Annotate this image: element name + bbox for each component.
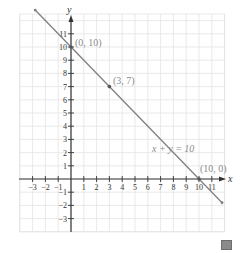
point-label-3-7: (3, 7): [113, 75, 135, 87]
y-tick-label: 2: [63, 149, 67, 158]
data-point: [69, 45, 73, 49]
y-tick-label: 9: [63, 56, 67, 65]
y-tick-label: 10: [59, 43, 67, 52]
x-tick-label: 5: [133, 183, 137, 192]
y-tick-label: 1: [63, 162, 67, 171]
y-tick-label: −1: [58, 188, 67, 197]
x-tick-label: 6: [146, 183, 150, 192]
y-axis-arrow-icon: [69, 15, 74, 22]
x-tick-label: 8: [171, 183, 175, 192]
x-axis-label: x: [227, 173, 233, 184]
y-tick-label: 8: [63, 69, 67, 78]
x-tick-label: 9: [184, 183, 188, 192]
y-tick-label: −2: [58, 201, 67, 210]
grid-lines: [20, 14, 225, 232]
y-axis-label: y: [66, 4, 72, 15]
x-tick-label: 10: [195, 183, 203, 192]
y-tick-label: 7: [63, 83, 67, 92]
y-tick-label: 11: [59, 30, 67, 39]
data-point: [108, 85, 112, 89]
coordinate-plane-chart: −3−2−11234567891011−3−2−11234567891011 x…: [0, 0, 244, 253]
x-tick-label: −2: [41, 183, 50, 192]
y-tick-label: −3: [58, 215, 67, 224]
corner-button[interactable]: [221, 240, 232, 250]
y-tick-label: 6: [63, 96, 67, 105]
point-label-10-0: (10, 0): [200, 163, 227, 175]
data-point: [197, 177, 201, 181]
line-x-plus-y-equals-10: [35, 10, 222, 203]
point-label-0-10: (0, 10): [75, 37, 102, 49]
x-tick-label: 1: [82, 183, 86, 192]
x-tick-label: 7: [159, 183, 163, 192]
y-tick-label: 3: [63, 135, 67, 144]
y-tick-label: 4: [63, 122, 67, 131]
x-tick-label: 3: [107, 183, 111, 192]
x-tick-label: −3: [28, 183, 37, 192]
y-tick-label: 5: [63, 109, 67, 118]
equation-label: x + y = 10: [151, 143, 194, 154]
x-tick-label: 2: [95, 183, 99, 192]
x-tick-label: 4: [120, 183, 124, 192]
x-tick-label: 11: [208, 183, 216, 192]
